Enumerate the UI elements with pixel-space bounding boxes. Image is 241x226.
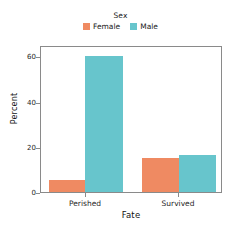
legend-entry-male[interactable]: Male xyxy=(130,22,158,31)
legend-label-male: Male xyxy=(140,22,158,31)
plot-frame xyxy=(40,46,222,193)
ytick-line-0 xyxy=(36,193,40,194)
bar-perished-female[interactable] xyxy=(49,180,85,192)
legend-entry-female[interactable]: Female xyxy=(83,22,120,31)
chart-legend: Sex Female Male xyxy=(0,11,241,31)
bar-survived-female[interactable] xyxy=(142,158,179,192)
legend-swatch-female xyxy=(83,23,90,30)
legend-swatch-male xyxy=(130,23,137,30)
legend-entries: Female Male xyxy=(0,22,241,31)
xtick-label-perished: Perished xyxy=(50,199,120,208)
ytick-label-60: 60 xyxy=(14,53,36,61)
ytick-label-0: 0 xyxy=(14,189,36,197)
legend-label-female: Female xyxy=(93,22,120,31)
plot-area xyxy=(41,47,221,192)
xtick-line-survived xyxy=(178,193,179,197)
bar-survived-male[interactable] xyxy=(179,155,216,192)
y-axis-label: Percent xyxy=(10,79,19,139)
xtick-label-survived: Survived xyxy=(143,199,213,208)
legend-title: Sex xyxy=(0,11,241,20)
xtick-line-perished xyxy=(85,193,86,197)
chart-figure: Sex Female Male 0 20 40 60 Percent xyxy=(0,0,241,226)
ytick-label-20: 20 xyxy=(14,144,36,152)
bar-perished-male[interactable] xyxy=(85,56,123,192)
x-axis-label: Fate xyxy=(40,210,222,220)
